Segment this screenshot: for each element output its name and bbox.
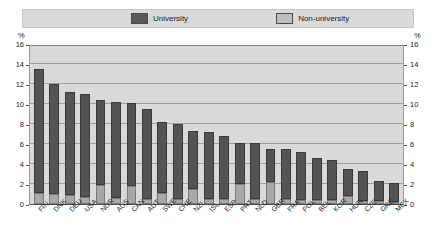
- x-label-cell: CZE: [356, 206, 372, 246]
- x-label-cell: SWE: [154, 206, 170, 246]
- y-tick-label-left-8: 8: [8, 121, 24, 129]
- bar-stack: [296, 152, 306, 204]
- bar-stack: [111, 102, 121, 204]
- bar-segment-university: [235, 143, 245, 184]
- bar-column-deu[interactable]: [62, 46, 77, 204]
- x-label-cell: DNK: [46, 206, 62, 246]
- legend-swatch-university-icon: [131, 13, 148, 24]
- x-label-cell: AUT: [139, 206, 155, 246]
- bar-segment-university: [157, 122, 167, 193]
- y-tick-label-left-14: 14: [8, 61, 24, 69]
- y-tick-mark-left-8: [26, 125, 29, 126]
- x-label-cell: USA: [77, 206, 93, 246]
- y-tick-label-right-8: 8: [410, 121, 426, 129]
- bar-stack: [204, 132, 214, 204]
- bar-column-nor[interactable]: [93, 46, 108, 204]
- y-tick-mark-right-8: [404, 125, 407, 126]
- y-tick-label-right-4: 4: [410, 161, 426, 169]
- bar-column-prt[interactable]: [232, 46, 247, 204]
- x-label-cell: BEL: [310, 206, 326, 246]
- bar-column-mex[interactable]: [386, 46, 401, 204]
- bar-column-swe[interactable]: [155, 46, 170, 204]
- bar-segment-university: [127, 103, 137, 186]
- bar-stack: [34, 69, 44, 204]
- y-tick-label-left-16: 16: [8, 41, 24, 49]
- y-axis-unit-right: %: [414, 31, 421, 40]
- x-label-cell: CAN: [123, 206, 139, 246]
- x-label-cell: ISL: [201, 206, 217, 246]
- bar-segment-university: [250, 143, 260, 199]
- bar-column-pol[interactable]: [294, 46, 309, 204]
- y-tick-label-left-12: 12: [8, 81, 24, 89]
- x-label-cell: FIN: [30, 206, 46, 246]
- bar-segment-university: [96, 100, 106, 185]
- bar-column-can[interactable]: [124, 46, 139, 204]
- y-tick-label-right-12: 12: [410, 81, 426, 89]
- chart-legend: University Non-university: [22, 9, 414, 28]
- bar-column-gbr[interactable]: [263, 46, 278, 204]
- x-label-cell: FRA: [279, 206, 295, 246]
- chart-plot-area: [29, 45, 404, 205]
- bar-column-bel[interactable]: [309, 46, 324, 204]
- bar-stack: [188, 131, 198, 204]
- bar-segment-university: [281, 149, 291, 199]
- bar-column-nld[interactable]: [247, 46, 262, 204]
- y-tick-label-left-0: 0: [8, 201, 24, 209]
- bar-column-nzl[interactable]: [186, 46, 201, 204]
- x-label-cell: DEU: [61, 206, 77, 246]
- bar-column-kor[interactable]: [325, 46, 340, 204]
- bar-column-usa[interactable]: [77, 46, 92, 204]
- bar-stack: [127, 103, 137, 204]
- bar-segment-university: [204, 132, 214, 199]
- bar-column-aus[interactable]: [108, 46, 123, 204]
- y-tick-label-right-0: 0: [410, 201, 426, 209]
- y-tick-mark-right-14: [404, 65, 407, 66]
- x-axis-labels: FINDNKDEUUSANORAUSCANAUTSWECHENZLISLESPP…: [29, 206, 404, 246]
- bar-column-dnk[interactable]: [46, 46, 61, 204]
- y-tick-label-left-4: 4: [8, 161, 24, 169]
- legend-item-non-university: Non-university: [276, 13, 349, 24]
- x-label-cell: MEX: [388, 206, 404, 246]
- y-tick-label-right-16: 16: [410, 41, 426, 49]
- y-tick-mark-right-2: [404, 185, 407, 186]
- bar-segment-university: [343, 169, 353, 196]
- legend-swatch-non-university-icon: [276, 13, 293, 24]
- bar-column-fin[interactable]: [31, 46, 46, 204]
- y-tick-label-right-10: 10: [410, 101, 426, 109]
- bar-column-fra[interactable]: [278, 46, 293, 204]
- bar-column-aut[interactable]: [139, 46, 154, 204]
- bar-segment-university: [327, 160, 337, 200]
- bar-column-grc[interactable]: [371, 46, 386, 204]
- y-tick-mark-left-14: [26, 65, 29, 66]
- legend-item-university: University: [131, 13, 188, 24]
- legend-label-non-university: Non-university: [298, 14, 349, 23]
- bar-stack: [312, 158, 322, 204]
- bar-segment-university: [80, 94, 90, 197]
- bar-segment-university: [374, 181, 384, 201]
- bar-column-isl[interactable]: [201, 46, 216, 204]
- gridline-16: [30, 43, 403, 44]
- x-label-cell: POL: [294, 206, 310, 246]
- bar-stack: [281, 149, 291, 204]
- bar-segment-university: [219, 136, 229, 199]
- bar-column-che[interactable]: [170, 46, 185, 204]
- y-tick-mark-right-10: [404, 105, 407, 106]
- bar-segment-university: [65, 92, 75, 195]
- bar-segment-university: [266, 149, 276, 182]
- bar-stack: [157, 122, 167, 204]
- bar-column-esp[interactable]: [216, 46, 231, 204]
- x-label-cell: GBR: [263, 206, 279, 246]
- x-label-cell: PRT: [232, 206, 248, 246]
- y-tick-mark-right-6: [404, 145, 407, 146]
- legend-label-university: University: [153, 14, 188, 23]
- bar-segment-university: [296, 152, 306, 200]
- bar-stack: [250, 143, 260, 204]
- bar-column-hun[interactable]: [340, 46, 355, 204]
- y-tick-label-left-2: 2: [8, 181, 24, 189]
- bar-segment-university: [173, 124, 183, 199]
- bar-column-cze[interactable]: [356, 46, 371, 204]
- y-tick-mark-left-12: [26, 85, 29, 86]
- y-tick-label-right-14: 14: [410, 61, 426, 69]
- y-tick-mark-right-16: [404, 45, 407, 46]
- y-tick-mark-left-10: [26, 105, 29, 106]
